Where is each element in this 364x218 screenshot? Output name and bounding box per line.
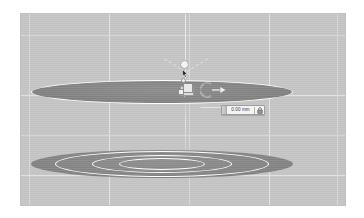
screenshot-root: 0.00 mm [0,0,364,218]
gridline-vertical [29,14,30,205]
lock-icon[interactable] [255,106,264,114]
gridline-horizontal [21,35,345,36]
gridline-horizontal [21,135,345,136]
rotation-arc-handle[interactable] [200,82,228,98]
concentric-ring-inner[interactable] [119,158,205,170]
cylinder-bottom-group [31,146,293,182]
gridline-vertical [337,14,338,205]
dimension-input[interactable]: 0.00 mm [221,105,265,115]
dimension-value-text[interactable]: 0.00 mm [227,106,254,114]
mouse-cursor-icon [182,69,188,78]
axis-sphere-handle[interactable] [180,60,189,69]
scale-square-handle[interactable] [183,83,193,93]
secondary-square-handle[interactable] [178,89,184,95]
